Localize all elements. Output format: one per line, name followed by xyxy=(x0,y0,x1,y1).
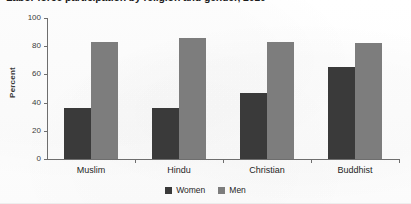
plot-area: 020406080100 MuslimHinduChristianBuddhis… xyxy=(47,18,399,159)
bar-men-muslim xyxy=(91,42,118,159)
legend-label: Women xyxy=(176,186,205,195)
y-tick-label: 20 xyxy=(13,127,41,135)
x-tick-label: Muslim xyxy=(47,165,135,175)
y-tick-label: 60 xyxy=(13,70,41,78)
y-tick-label: 0 xyxy=(13,155,41,163)
bar-group xyxy=(47,18,135,159)
x-tick-mark xyxy=(135,159,136,163)
legend-swatch-icon xyxy=(165,187,172,194)
legend-item-men[interactable]: Men xyxy=(218,186,246,195)
x-tick-mark xyxy=(399,159,400,163)
bar-women-hindu xyxy=(152,108,179,159)
x-tick-label: Buddhist xyxy=(311,165,399,175)
bar-women-christian xyxy=(240,93,267,159)
x-tick-label: Hindu xyxy=(135,165,223,175)
y-tick-mark xyxy=(44,159,48,160)
legend-label: Men xyxy=(229,186,246,195)
bar-group xyxy=(223,18,311,159)
y-tick-label: 80 xyxy=(13,42,41,50)
bar-group xyxy=(311,18,399,159)
legend-item-women[interactable]: Women xyxy=(165,186,205,195)
bar-chart-figure: Labor force participation by religion an… xyxy=(0,0,411,204)
bar-groups xyxy=(47,18,399,159)
y-tick-label: 40 xyxy=(13,99,41,107)
y-tick-label: 100 xyxy=(13,14,41,22)
bar-women-muslim xyxy=(64,108,91,159)
x-tick-mark xyxy=(223,159,224,163)
page-edge xyxy=(0,203,411,204)
bar-men-hindu xyxy=(179,38,206,159)
x-tick-label: Christian xyxy=(223,165,311,175)
x-tick-mark xyxy=(311,159,312,163)
chart-legend: WomenMen xyxy=(0,186,411,195)
bar-men-buddhist xyxy=(355,43,382,159)
legend-swatch-icon xyxy=(218,187,225,194)
chart-title: Labor force participation by religion an… xyxy=(6,0,406,3)
bar-group xyxy=(135,18,223,159)
bar-women-buddhist xyxy=(328,67,355,159)
bar-men-christian xyxy=(267,42,294,159)
